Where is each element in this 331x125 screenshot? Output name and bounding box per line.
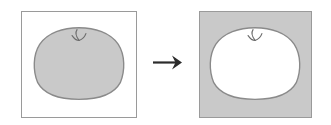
apple-body-path bbox=[210, 28, 299, 100]
figure-container bbox=[0, 0, 331, 125]
transform-arrow bbox=[150, 50, 186, 76]
apple-shape-inverted bbox=[200, 12, 311, 117]
panel-after bbox=[199, 11, 312, 118]
panel-before bbox=[21, 11, 137, 118]
apple-shape-filled bbox=[22, 12, 136, 117]
apple-body-path bbox=[34, 28, 123, 100]
arrow-right-icon bbox=[150, 50, 186, 76]
